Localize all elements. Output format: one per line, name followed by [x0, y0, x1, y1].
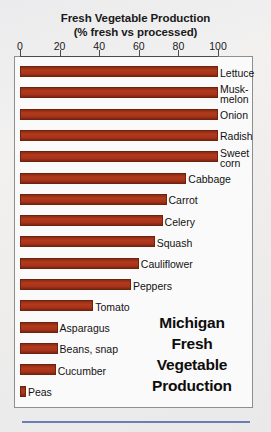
horizontal-rule	[22, 421, 250, 423]
annotation-line: Fresh	[138, 333, 246, 354]
bar-label-line1: Carrot	[169, 195, 198, 205]
bar-row: Onion	[0, 105, 271, 126]
bar-label-line2: melon	[220, 94, 249, 104]
bar-label: Squash	[155, 232, 193, 253]
bar-label-line1: Celery	[165, 217, 195, 227]
x-tick-mark-100	[218, 50, 219, 56]
bar-label: Asparagus	[58, 318, 110, 339]
bar-label-line1: Cauliflower	[141, 259, 193, 269]
bar-label-line1: Tomato	[95, 302, 129, 312]
bar-label: Sweetcorn	[218, 147, 249, 168]
bar	[20, 173, 186, 184]
bar-row: Cabbage	[0, 169, 271, 190]
bar	[20, 279, 131, 290]
bar-row: Musk-melon	[0, 83, 271, 104]
annotation-line: Production	[138, 375, 246, 396]
bar	[20, 194, 167, 205]
x-tick-mark-80	[178, 50, 179, 56]
bar-label-line1: Peppers	[133, 281, 172, 291]
bar-label: Radish	[218, 126, 253, 147]
bar	[20, 364, 56, 375]
bar-label: Peppers	[131, 275, 172, 296]
x-tick-mark-60	[139, 50, 140, 56]
bar	[20, 322, 58, 333]
annotation-line: Vegetable	[138, 354, 246, 375]
bar-row: Carrot	[0, 190, 271, 211]
bar	[20, 130, 218, 141]
x-tick-mark-20	[60, 50, 61, 56]
chart-annotation: MichiganFreshVegetableProduction	[138, 312, 246, 396]
bar-label-line1: Peas	[28, 387, 52, 397]
x-tick-mark-40	[99, 50, 100, 56]
bar-label: Lettuce	[218, 62, 254, 83]
bar-row: Radish	[0, 126, 271, 147]
bar	[20, 236, 155, 247]
bar	[20, 87, 218, 98]
x-axis-tick-labels: 020406080100	[0, 40, 271, 54]
bar-label-line2: corn	[220, 158, 249, 168]
bar	[20, 300, 93, 311]
bar-row: Sweetcorn	[0, 147, 271, 168]
bar-label: Onion	[218, 105, 248, 126]
bar	[20, 343, 58, 354]
bar-label-line1: Squash	[157, 238, 193, 248]
bar-label-line1: Onion	[220, 110, 248, 120]
annotation-line: Michigan	[138, 312, 246, 333]
bar-label: Cauliflower	[139, 254, 193, 275]
bar	[20, 258, 139, 269]
bar-label-line1: Asparagus	[60, 323, 110, 333]
bar-label-line1: Cucumber	[58, 366, 106, 376]
bar-label: Peas	[26, 382, 52, 403]
bar-label: Tomato	[93, 296, 129, 317]
bar-label: Beans, snap	[58, 339, 118, 360]
bar-label-line1: Radish	[220, 131, 253, 141]
bar-label-line1: Lettuce	[220, 68, 254, 78]
bar-label-line1: Cabbage	[188, 174, 231, 184]
bar	[20, 215, 163, 226]
x-axis-line	[20, 56, 218, 57]
bar-row: Peppers	[0, 275, 271, 296]
bar-label: Musk-melon	[218, 83, 249, 104]
bar-label: Carrot	[167, 190, 198, 211]
bar-label: Cabbage	[186, 169, 231, 190]
bar	[20, 109, 218, 120]
bar-label: Celery	[163, 211, 195, 232]
bar-row: Lettuce	[0, 62, 271, 83]
bar	[20, 151, 218, 162]
bar-row: Cauliflower	[0, 254, 271, 275]
bar-row: Celery	[0, 211, 271, 232]
x-tick-mark-0	[20, 50, 21, 56]
bar-row: Squash	[0, 232, 271, 253]
bar-label: Cucumber	[56, 360, 106, 381]
bar	[20, 66, 218, 77]
bar-label-line1: Beans, snap	[60, 344, 118, 354]
